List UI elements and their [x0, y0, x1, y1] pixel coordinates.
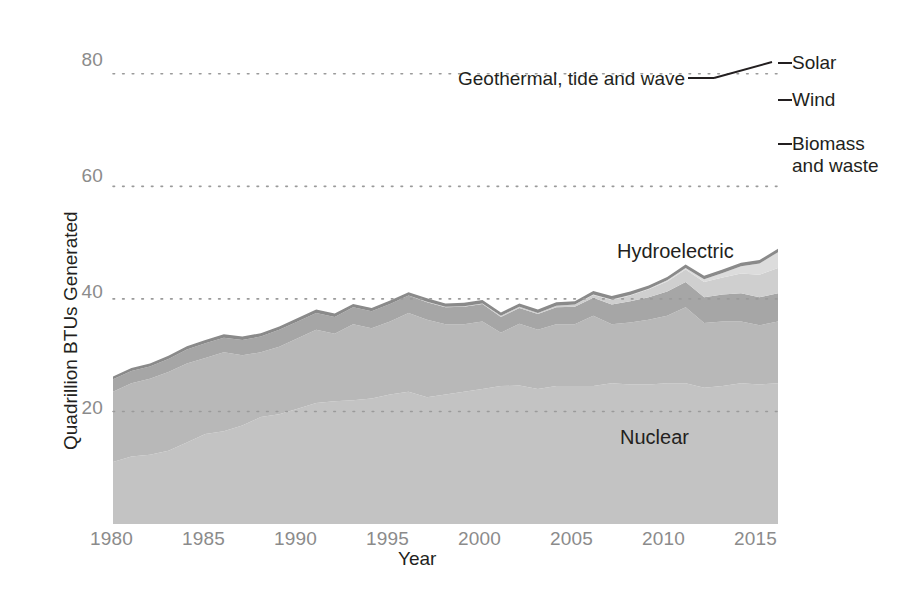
y-tick-80: 80	[48, 49, 103, 71]
x-tick-1985: 1985	[182, 528, 225, 550]
series-label-geothermal: Geothermal, tide and wave	[458, 68, 685, 90]
series-label-wind: Wind	[792, 89, 835, 111]
stacked-area-chart: 20 40 60 80 1980 1985 1990 1995 2000 200…	[0, 0, 899, 600]
x-tick-2005: 2005	[550, 528, 593, 550]
x-tick-2000: 2000	[458, 528, 501, 550]
leader-geothermal	[714, 62, 772, 78]
x-tick-2010: 2010	[642, 528, 685, 550]
y-axis-title: Quadrillion BTUs Generated	[60, 211, 82, 450]
x-tick-2015: 2015	[734, 528, 777, 550]
series-areas	[113, 249, 778, 524]
x-tick-1995: 1995	[366, 528, 409, 550]
x-axis-title: Year	[398, 548, 436, 570]
x-tick-1990: 1990	[274, 528, 317, 550]
series-label-hydroelectric: Hydroelectric	[617, 240, 734, 263]
series-label-solar: Solar	[792, 52, 836, 74]
x-tick-1980: 1980	[90, 528, 133, 550]
series-label-nuclear: Nuclear	[620, 426, 689, 449]
y-tick-60: 60	[48, 165, 103, 187]
series-label-biomass: Biomass and waste	[792, 133, 888, 178]
chart-canvas	[0, 0, 899, 600]
